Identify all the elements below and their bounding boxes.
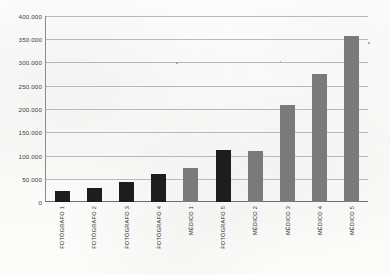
x-label-slot: FOTÓGRAFO 5: [207, 204, 239, 272]
x-label-slot: MÉDICO 5: [336, 204, 368, 272]
x-label-slot: FOTÓGRAFO 2: [78, 204, 110, 272]
scan-speck: [368, 42, 370, 44]
x-label-slot: MÉDICO 1: [175, 204, 207, 272]
bar-slot: [336, 16, 368, 202]
x-tick-label: MÉDICO 3: [285, 206, 291, 235]
x-label-slot: MÉDICO 3: [271, 204, 303, 272]
x-axis-tick-labels: FOTÓGRAFO 1FOTÓGRAFO 2FOTÓGRAFO 3FOTÓGRA…: [46, 204, 368, 272]
x-tick-label: FOTÓGRAFO 1: [59, 206, 65, 249]
x-label-slot: FOTÓGRAFO 1: [46, 204, 78, 272]
bar-series: [46, 16, 368, 202]
bar-chart: 400.000 350.000 300.000 250.000 200.000 …: [0, 0, 390, 275]
bar[interactable]: [248, 151, 263, 202]
y-tick-label: 250.000: [2, 83, 42, 90]
bar[interactable]: [216, 150, 231, 202]
bar-slot: [78, 16, 110, 202]
x-label-slot: FOTÓGRAFO 3: [110, 204, 142, 272]
x-tick-label: MÉDICO 5: [349, 206, 355, 235]
bar-slot: [271, 16, 303, 202]
x-tick-label: MÉDICO 2: [252, 206, 258, 235]
bar-slot: [110, 16, 142, 202]
bar[interactable]: [119, 182, 134, 202]
x-tick-label: MÉDICO 1: [188, 206, 194, 235]
bar[interactable]: [151, 174, 166, 202]
x-tick-label: FOTÓGRAFO 2: [91, 206, 97, 249]
y-tick-label: 350.000: [2, 36, 42, 43]
y-tick-label: 300.000: [2, 59, 42, 66]
bar-slot: [46, 16, 78, 202]
bar[interactable]: [312, 74, 327, 202]
x-tick-label: FOTÓGRAFO 5: [220, 206, 226, 249]
bar-slot: [175, 16, 207, 202]
bar-slot: [304, 16, 336, 202]
y-tick-label: 150.000: [2, 129, 42, 136]
x-label-slot: MÉDICO 4: [304, 204, 336, 272]
x-tick-label: FOTÓGRAFO 4: [156, 206, 162, 249]
bar[interactable]: [344, 36, 359, 202]
y-tick-label: 50.000: [2, 176, 42, 183]
bar-slot: [239, 16, 271, 202]
x-label-slot: MÉDICO 2: [239, 204, 271, 272]
bar-slot: [207, 16, 239, 202]
bar[interactable]: [280, 105, 295, 202]
y-tick-label: 400.000: [2, 13, 42, 20]
y-tick-label: 0: [2, 199, 42, 206]
x-tick-label: MÉDICO 4: [317, 206, 323, 235]
bar[interactable]: [87, 188, 102, 202]
bar-slot: [143, 16, 175, 202]
x-tick-label: FOTÓGRAFO 3: [124, 206, 130, 249]
y-tick-label: 200.000: [2, 106, 42, 113]
y-tick-label: 100.000: [2, 153, 42, 160]
bar[interactable]: [55, 191, 70, 202]
bar[interactable]: [183, 168, 198, 202]
x-label-slot: FOTÓGRAFO 4: [143, 204, 175, 272]
